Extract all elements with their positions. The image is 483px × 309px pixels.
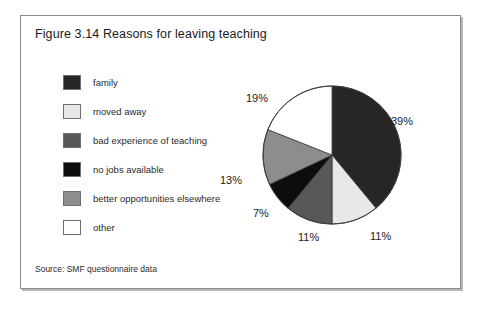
- pie-value-label-better-opportunities: 13%: [220, 174, 242, 186]
- legend-label-other: other: [93, 222, 115, 233]
- pie-slices: [263, 86, 401, 224]
- legend-label-family: family: [93, 77, 118, 88]
- pie-value-label-family: 39%: [391, 115, 413, 127]
- pie-chart: 39% 11% 11% 7% 13% 19%: [262, 85, 402, 225]
- pie-value-label-other: 19%: [246, 92, 268, 104]
- legend-item-family[interactable]: family: [63, 68, 253, 97]
- chart-legend: family moved away bad experience of teac…: [63, 68, 253, 242]
- legend-label-no-jobs-available: no jobs available: [93, 164, 164, 175]
- legend-item-bad-experience-of-teaching[interactable]: bad experience of teaching: [63, 126, 253, 155]
- legend-item-moved-away[interactable]: moved away: [63, 97, 253, 126]
- legend-swatch-no-jobs-available: [63, 162, 81, 177]
- source-note: Source: SMF questionnaire data: [35, 264, 157, 274]
- pie-value-label-moved-away: 11%: [370, 230, 391, 242]
- legend-item-other[interactable]: other: [63, 213, 253, 242]
- pie-value-label-bad-experience: 11%: [298, 231, 319, 243]
- legend-swatch-family: [63, 75, 81, 90]
- legend-swatch-moved-away: [63, 104, 81, 119]
- legend-label-moved-away: moved away: [93, 106, 146, 117]
- legend-swatch-better-opportunities-elsewhere: [63, 191, 81, 206]
- figure-title: Figure 3.14 Reasons for leaving teaching: [35, 27, 267, 41]
- legend-label-better-opportunities-elsewhere: better opportunities elsewhere: [93, 193, 220, 204]
- legend-swatch-bad-experience-of-teaching: [63, 133, 81, 148]
- legend-label-bad-experience-of-teaching: bad experience of teaching: [93, 135, 207, 146]
- pie-chart-svg: [262, 85, 402, 225]
- figure-panel: Figure 3.14 Reasons for leaving teaching…: [20, 15, 461, 289]
- pie-value-label-no-jobs: 7%: [253, 207, 269, 219]
- legend-swatch-other: [63, 220, 81, 235]
- legend-item-better-opportunities-elsewhere[interactable]: better opportunities elsewhere: [63, 184, 253, 213]
